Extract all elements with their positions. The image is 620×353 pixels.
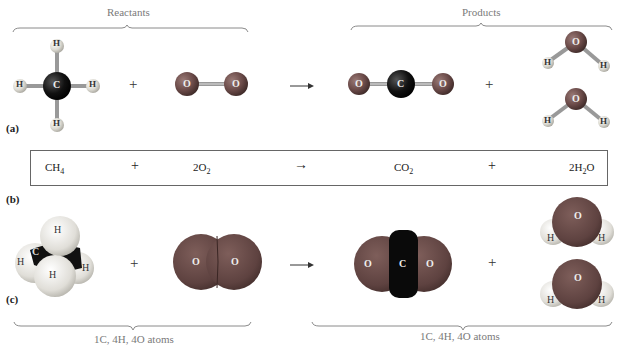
atom-label-h: H: [600, 116, 607, 126]
formula-text: CO: [394, 161, 409, 173]
equation-plus: +: [131, 158, 139, 174]
atom-label-c: C: [32, 246, 39, 257]
subscript: 2: [409, 167, 413, 176]
atom-label-h: H: [544, 115, 551, 125]
atom-label-h: H: [49, 269, 56, 280]
formula-text: CH: [45, 161, 60, 173]
subscript: 4: [60, 167, 64, 176]
atom-label-o: O: [572, 36, 580, 47]
equation-methane: CH4: [45, 161, 64, 176]
atom-label-h: H: [544, 57, 551, 67]
equation-water: 2H2O: [569, 161, 594, 176]
atom-label-o: O: [231, 256, 239, 267]
atom-label-o: O: [364, 258, 372, 269]
atom-label-h: H: [16, 79, 23, 89]
atom-label-o: O: [574, 210, 582, 221]
equation-carbon-dioxide: CO2: [394, 161, 413, 176]
atom-label-h: H: [598, 232, 605, 243]
reactant-atom-count: 1C, 4H, 4O atoms: [94, 333, 174, 345]
atom-label-h: H: [598, 294, 605, 305]
atom-label-o: O: [574, 272, 582, 283]
panel-label-a: (a): [6, 122, 19, 134]
plus-sign: +: [488, 254, 496, 271]
plus-sign: +: [130, 255, 138, 272]
atom-label-o: O: [355, 78, 363, 89]
atom-label-h: H: [17, 256, 24, 267]
plus-sign: +: [485, 76, 493, 93]
equation-oxygen: 2O2: [193, 161, 210, 176]
panel-label-b: (b): [6, 193, 19, 205]
formula-text: 2O: [193, 161, 206, 173]
atom-label-h: H: [547, 294, 554, 305]
product-atom-count: 1C, 4H, 4O atoms: [420, 330, 500, 342]
atom-label-h: H: [89, 79, 96, 89]
equation-arrow: →: [294, 157, 308, 173]
atom-label-h: H: [53, 38, 60, 48]
atom-label-o: O: [183, 78, 191, 89]
atom-label-c: C: [397, 78, 404, 89]
formula-text: 2H: [569, 161, 582, 173]
atom-label-o: O: [439, 78, 447, 89]
atom-label-h: H: [54, 224, 61, 235]
plus-sign: +: [129, 76, 137, 93]
combustion-of-methane-figure: Reactants Products: [0, 0, 620, 353]
equation-plus: +: [488, 158, 496, 174]
atom-label-o: O: [572, 93, 580, 104]
oxygen-space-filling: [173, 234, 262, 290]
atom-label-h: H: [53, 118, 60, 128]
atom-label-h: H: [547, 232, 554, 243]
atom-label-c: C: [53, 79, 60, 90]
atom-label-o: O: [426, 258, 434, 269]
subscript: 2: [206, 167, 210, 176]
atom-label-h: H: [600, 60, 607, 70]
chemical-equation-box: CH4 + 2O2 → CO2 + 2H2O: [30, 150, 608, 186]
atom-label-o: O: [192, 256, 200, 267]
atom-label-h: H: [82, 262, 89, 273]
atom-label-o: O: [232, 78, 240, 89]
atom-label-c: C: [399, 258, 406, 269]
panel-label-c: (c): [6, 293, 18, 305]
formula-text: O: [586, 161, 594, 173]
